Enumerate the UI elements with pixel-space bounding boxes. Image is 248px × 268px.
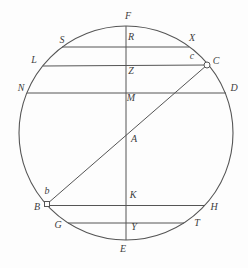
chord-LC <box>43 65 207 66</box>
point-label-c: c <box>190 50 195 61</box>
point-label-S: S <box>60 34 65 45</box>
point-label-G: G <box>54 219 61 230</box>
point-label-b: b <box>45 185 50 196</box>
point-label-L: L <box>30 54 37 65</box>
diagonal-BC <box>47 65 207 204</box>
point-label-F: F <box>124 10 132 21</box>
point-C-marker <box>204 62 210 68</box>
point-label-H: H <box>209 201 218 212</box>
point-label-B: B <box>34 201 40 212</box>
point-label-C: C <box>213 55 220 66</box>
point-label-E: E <box>119 243 126 254</box>
point-label-M: M <box>126 92 136 103</box>
circle-diagram: FSRXLcCZNMDAbBKHGYTE <box>0 0 248 268</box>
point-label-R: R <box>127 31 134 42</box>
point-label-X: X <box>188 32 196 43</box>
point-B-marker <box>45 202 50 207</box>
point-label-Z: Z <box>128 65 134 76</box>
point-label-T: T <box>194 217 201 228</box>
geometry-figure: FSRXLcCZNMDAbBKHGYTE <box>0 0 248 268</box>
point-label-D: D <box>229 82 238 93</box>
point-label-A: A <box>130 133 138 144</box>
point-label-K: K <box>129 189 138 200</box>
point-label-N: N <box>17 82 26 93</box>
